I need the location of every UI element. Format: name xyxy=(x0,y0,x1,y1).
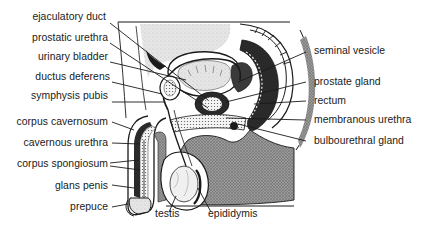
symphysis-pubis-shape xyxy=(160,76,180,100)
label-testis: testis xyxy=(155,208,180,220)
label-ejaculatory-duct: ejaculatory duct xyxy=(32,11,106,23)
label-prostate-gland: prostate gland xyxy=(314,76,381,88)
label-cavernous-urethra: cavernous urethra xyxy=(23,137,108,149)
posterior-tissue xyxy=(298,36,315,148)
label-membranous-urethra: membranous urethra xyxy=(314,114,411,126)
label-bulbourethral-gland: bulbourethral gland xyxy=(314,135,404,147)
label-epididymis: epididymis xyxy=(208,208,258,220)
label-urinary-bladder: urinary bladder xyxy=(38,51,108,63)
reproductive-anatomy-figure: ejaculatory duct prostatic urethra urina… xyxy=(0,0,428,234)
label-symphysis-pubis: symphysis pubis xyxy=(31,90,108,102)
bulbourethral-gland-shape xyxy=(230,122,238,130)
label-prepuce: prepuce xyxy=(70,201,108,213)
label-prostatic-urethra: prostatic urethra xyxy=(32,32,108,44)
penis-shape xyxy=(126,116,166,216)
label-glans-penis: glans penis xyxy=(55,180,108,192)
label-ductus-deferens: ductus deferens xyxy=(35,71,110,83)
label-corpus-cavernosum: corpus cavernosum xyxy=(16,116,108,128)
label-seminal-vesicle: seminal vesicle xyxy=(314,45,385,57)
label-corpus-spongiosum: corpus spongiosum xyxy=(17,158,108,170)
prostate-gland-shape xyxy=(195,92,229,116)
label-rectum: rectum xyxy=(314,95,346,107)
